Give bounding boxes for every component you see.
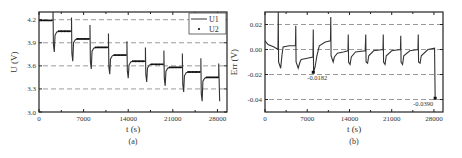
annotation-marker xyxy=(434,97,437,100)
y-tick-label: 3.9 xyxy=(27,39,36,47)
legend: U1U2 xyxy=(189,13,226,34)
y-tick-label: -0.04 xyxy=(247,96,262,104)
y-axis-title: U (V) xyxy=(9,51,19,72)
x-axis-title: t (s) xyxy=(126,124,140,134)
panel-label: (b) xyxy=(349,137,359,146)
y-tick-label: -0.02 xyxy=(247,71,262,79)
panel-label: (a) xyxy=(129,137,138,146)
x-tick-label: 7000 xyxy=(300,115,315,123)
x-tick-label: 7000 xyxy=(77,115,92,123)
legend-dot-icon xyxy=(198,28,200,30)
legend-label-u2: U2 xyxy=(209,25,219,34)
u2-point xyxy=(217,76,219,78)
legend-box xyxy=(189,13,226,34)
plot-frame xyxy=(265,12,443,112)
u2-point xyxy=(69,30,71,32)
annotation-label: -0.0390 xyxy=(413,100,433,107)
u2-point xyxy=(180,66,182,68)
u2-point xyxy=(125,54,127,56)
y-tick-label: 3.3 xyxy=(27,85,36,93)
x-tick-label: 0 xyxy=(263,115,267,123)
y-axis-title: Err (V) xyxy=(229,49,239,75)
x-tick-label: 14000 xyxy=(119,115,137,123)
chart-b: -0.04-0.020.000.0207000140002100028000t … xyxy=(229,12,443,146)
u2-point xyxy=(143,60,145,62)
x-tick-label: 21000 xyxy=(164,115,182,123)
u2-point xyxy=(198,71,200,73)
y-tick-label: 0.02 xyxy=(250,21,263,29)
u2-point xyxy=(106,46,108,48)
y-tick-label: 3.6 xyxy=(27,62,36,70)
chart-a: 3.03.33.63.94.207000140002100028000t (s)… xyxy=(9,10,227,146)
x-tick-label: 28000 xyxy=(425,115,443,123)
x-axis-title: t (s) xyxy=(347,124,361,134)
x-tick-label: 14000 xyxy=(341,115,359,123)
u2-point xyxy=(88,38,90,40)
x-tick-label: 28000 xyxy=(209,115,227,123)
y-tick-label: 3.0 xyxy=(27,109,36,117)
x-tick-label: 21000 xyxy=(383,115,401,123)
legend-label-u1: U1 xyxy=(209,15,219,24)
figure: 3.03.33.63.94.207000140002100028000t (s)… xyxy=(0,0,462,158)
u2-point xyxy=(50,20,52,22)
u2-point xyxy=(161,63,163,65)
y-tick-label: 4.2 xyxy=(27,16,36,24)
x-tick-label: 0 xyxy=(37,115,41,123)
y-tick-label: 0.00 xyxy=(250,46,263,54)
annotation-label: -0.0182 xyxy=(307,74,327,81)
